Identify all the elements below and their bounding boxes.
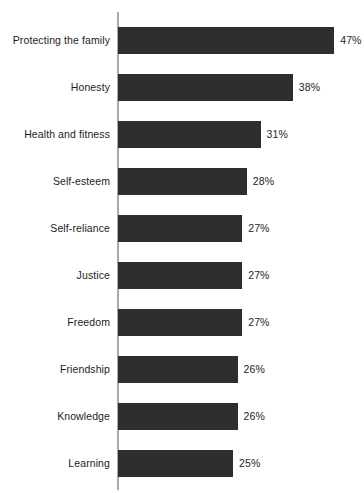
bar-chart: Protecting the family47%Honesty38%Health… bbox=[0, 0, 364, 493]
bar-row: Learning25% bbox=[0, 450, 364, 477]
bar-value-label: 26% bbox=[244, 403, 265, 430]
bar bbox=[118, 262, 242, 289]
category-label: Self-reliance bbox=[50, 215, 110, 242]
bar-row: Justice27% bbox=[0, 262, 364, 289]
bar bbox=[118, 356, 238, 383]
category-label: Justice bbox=[77, 262, 110, 289]
category-label: Friendship bbox=[60, 356, 110, 383]
bar bbox=[118, 403, 238, 430]
bar-value-label: 31% bbox=[267, 121, 288, 148]
category-label: Protecting the family bbox=[13, 27, 110, 54]
bar-value-label: 27% bbox=[248, 262, 269, 289]
category-label: Freedom bbox=[67, 309, 110, 336]
plot-area: Protecting the family47%Honesty38%Health… bbox=[0, 0, 364, 493]
bar-value-label: 25% bbox=[239, 450, 260, 477]
bar-row: Freedom27% bbox=[0, 309, 364, 336]
bar-value-label: 27% bbox=[248, 309, 269, 336]
bar-value-label: 38% bbox=[299, 74, 320, 101]
bar bbox=[118, 27, 334, 54]
category-label: Honesty bbox=[71, 74, 110, 101]
bar-value-label: 28% bbox=[253, 168, 274, 195]
bar-row: Health and fitness31% bbox=[0, 121, 364, 148]
bar-row: Protecting the family47% bbox=[0, 27, 364, 54]
bar-value-label: 26% bbox=[244, 356, 265, 383]
bar-row: Knowledge26% bbox=[0, 403, 364, 430]
bar bbox=[118, 450, 233, 477]
bar-row: Honesty38% bbox=[0, 74, 364, 101]
category-label: Health and fitness bbox=[24, 121, 110, 148]
bar bbox=[118, 168, 247, 195]
bar-row: Self-esteem28% bbox=[0, 168, 364, 195]
bar bbox=[118, 309, 242, 336]
bar-value-label: 27% bbox=[248, 215, 269, 242]
bar-value-label: 47% bbox=[340, 27, 361, 54]
category-label: Learning bbox=[68, 450, 110, 477]
bar bbox=[118, 121, 261, 148]
bar-row: Self-reliance27% bbox=[0, 215, 364, 242]
bar bbox=[118, 74, 293, 101]
category-label: Knowledge bbox=[57, 403, 110, 430]
bar bbox=[118, 215, 242, 242]
bar-row: Friendship26% bbox=[0, 356, 364, 383]
category-label: Self-esteem bbox=[53, 168, 110, 195]
